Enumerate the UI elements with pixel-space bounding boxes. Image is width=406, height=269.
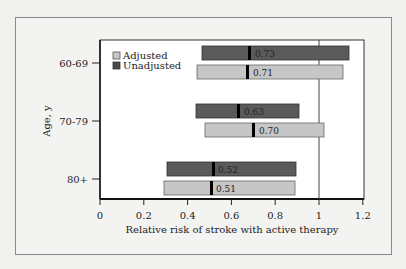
point-estimate-marker <box>237 104 240 118</box>
point-estimate-marker <box>212 162 215 176</box>
x-axis-title: Relative risk of stroke with active ther… <box>125 224 338 235</box>
y-tick-70-79: 70-79 <box>59 116 88 127</box>
bar-label-adjusted-70-79: 0.70 <box>259 126 279 136</box>
legend-label-unadjusted: Unadjusted <box>123 60 182 71</box>
bar-unadjusted-60-69 <box>202 46 349 60</box>
bar-label-adjusted-80plus: 0.51 <box>216 184 236 194</box>
bar-label-unadjusted-80plus: 0.52 <box>218 165 238 175</box>
x-tick-0.4: 0.4 <box>180 210 196 221</box>
y-tick-80plus: 80+ <box>67 174 88 185</box>
x-tick-1.2: 1.2 <box>355 210 371 221</box>
point-estimate-marker <box>252 123 255 137</box>
y-tick-60-69: 60-69 <box>59 58 88 69</box>
legend-swatch-adjusted <box>113 52 120 59</box>
legend-swatch-unadjusted <box>113 62 120 69</box>
bar-label-adjusted-60-69: 0.71 <box>253 68 273 78</box>
bar-label-unadjusted-70-79: 0.63 <box>244 107 264 117</box>
y-tick-labels: 60-69 70-79 80+ <box>59 58 88 185</box>
chart-svg: 0 0.2 0.4 0.6 0.8 1 1.2 Relative risk of… <box>0 0 406 269</box>
x-tick-0.2: 0.2 <box>136 210 152 221</box>
point-estimate-marker <box>210 181 213 195</box>
point-estimate-marker <box>246 65 249 79</box>
y-axis-title: Age, y <box>41 105 52 138</box>
x-tick-1: 1 <box>316 210 322 221</box>
x-tick-0.8: 0.8 <box>267 210 283 221</box>
x-tick-0: 0 <box>97 210 103 221</box>
bar-label-unadjusted-60-69: 0.73 <box>255 49 275 59</box>
y-ticks <box>92 63 100 179</box>
x-tick-labels: 0 0.2 0.4 0.6 0.8 1 1.2 <box>97 210 371 221</box>
point-estimate-marker <box>248 46 251 60</box>
x-tick-0.6: 0.6 <box>223 210 239 221</box>
